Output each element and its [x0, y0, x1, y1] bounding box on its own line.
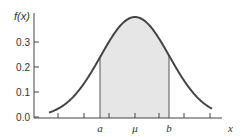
y-tick-label: 0.3	[16, 37, 30, 48]
shaded-area-a-to-b	[100, 17, 169, 118]
x-tick-label-b: b	[166, 122, 172, 134]
y-tick-label: 0.0	[16, 112, 30, 123]
x-tick-label-mu: μ	[131, 122, 138, 134]
x-tick-label-a: a	[97, 122, 103, 134]
x-axis-label: x	[227, 122, 233, 134]
normal-distribution-chart: 0.00.10.20.3 f(x) x a μ b	[0, 0, 248, 137]
y-ticks: 0.00.10.20.3	[16, 37, 39, 123]
y-tick-label: 0.2	[16, 62, 30, 73]
y-tick-label: 0.1	[16, 87, 30, 98]
y-axis-label: f(x)	[14, 10, 30, 22]
